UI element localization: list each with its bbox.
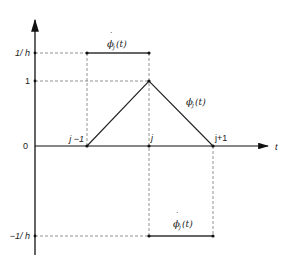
label-phi: ϕ j (t) (186, 96, 206, 109)
basis-function-diagram: 1/ h 1 0 −1/ h j −1 j j+1 t ϕ j · (t) ϕ … (0, 0, 294, 263)
label-phi-dot-top: ϕ j · (t) (107, 28, 127, 51)
svg-text:(t): (t) (195, 97, 206, 107)
label-j-plus-1: j+1 (214, 133, 227, 143)
guide-lines (35, 53, 213, 236)
tick-inv-h: 1/ h (15, 48, 30, 58)
tick-zero: 0 (23, 141, 28, 151)
svg-text:(t): (t) (116, 39, 127, 49)
tick-neg-inv-h: −1/ h (10, 231, 30, 241)
tick-one: 1 (25, 76, 30, 86)
phi-hat-function (87, 81, 213, 146)
label-j: j (150, 133, 154, 143)
svg-text:·: · (176, 208, 179, 217)
node-points (34, 51, 215, 237)
label-phi-dot-bottom: ϕ j · (t) (173, 208, 193, 231)
label-t: t (275, 142, 278, 152)
svg-text:·: · (110, 28, 113, 37)
label-j-minus-1: j −1 (68, 134, 84, 144)
svg-text:(t): (t) (182, 219, 193, 229)
